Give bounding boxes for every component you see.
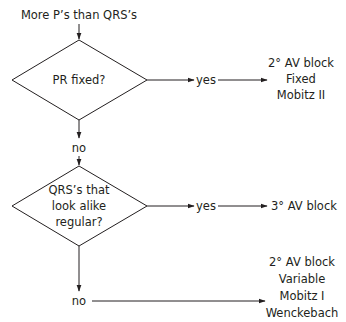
d2-no-result-line4: Wenckebach [266, 306, 339, 320]
flowchart: More P’s than QRS’s PR fixed? yes 2° AV … [0, 0, 346, 322]
decision-pr-fixed-label: PR fixed? [53, 73, 106, 87]
decision-qrs-regular-line3: regular? [55, 215, 102, 229]
d2-no-result-line1: 2° AV block [269, 255, 335, 269]
d1-yes-result-line3: Mobitz II [277, 88, 325, 102]
d2-no-result-line3: Mobitz I [279, 289, 324, 303]
d2-no-label: no [72, 294, 86, 308]
d2-yes-result: 3° AV block [271, 199, 337, 213]
decision-qrs-regular-line2: look alike [52, 199, 106, 213]
start-label: More P’s than QRS’s [21, 8, 137, 22]
d1-yes-label: yes [196, 73, 216, 87]
d2-yes-label: yes [196, 199, 216, 213]
d2-no-result-line2: Variable [279, 272, 326, 286]
decision-qrs-regular-line1: QRS’s that [49, 183, 110, 197]
d1-yes-result-line2: Fixed [286, 72, 316, 86]
d1-no-label: no [72, 141, 86, 155]
d1-yes-result-line1: 2° AV block [268, 56, 334, 70]
